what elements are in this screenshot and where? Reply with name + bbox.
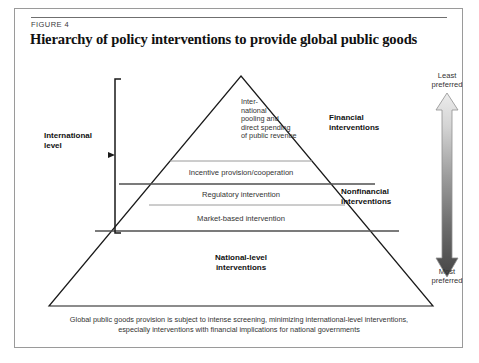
figure-note-line-1: Global public goods provision is subject… (55, 315, 423, 325)
preference-arrow (436, 93, 458, 277)
most-line-2: preferred (432, 276, 463, 285)
pyramid-diagram (15, 9, 462, 347)
nonfinancial-line-1: Nonfinancial (341, 187, 391, 197)
arrow-label-most-preferred: Most preferred (432, 267, 463, 285)
base-line-2: interventions (215, 263, 267, 273)
base-line-1: National-level (215, 253, 267, 263)
bracket-label-international-level: International level (44, 131, 92, 151)
least-line-1: Least (432, 71, 463, 80)
financial-line-2: interventions (329, 123, 379, 133)
bracket-line-2: level (44, 141, 92, 151)
tier-label-incentive-provision: Incentive provision/cooperation (189, 168, 294, 177)
annotation-financial-interventions: Financial interventions (329, 113, 379, 133)
figure-note: Global public goods provision is subject… (55, 315, 423, 335)
international-level-bracket-tick (108, 152, 115, 158)
tier-label-national-level: National-level interventions (215, 253, 267, 273)
figure-container: FIGURE 4 Hierarchy of policy interventio… (14, 8, 463, 348)
annotation-nonfinancial-interventions: Nonfinancial interventions (341, 187, 391, 207)
tier-label-regulatory-intervention: Regulatory intervention (202, 190, 280, 199)
international-level-bracket (115, 79, 121, 233)
nonfinancial-line-2: interventions (341, 197, 391, 207)
figure-note-line-2: especially interventions with financial … (55, 325, 423, 335)
bracket-line-1: International (44, 131, 92, 141)
financial-line-1: Financial (329, 113, 379, 123)
arrow-label-least-preferred: Least preferred (432, 71, 463, 89)
tier-label-market-based-intervention: Market-based intervention (197, 214, 285, 223)
most-line-1: Most (432, 267, 463, 276)
least-line-2: preferred (432, 80, 463, 89)
